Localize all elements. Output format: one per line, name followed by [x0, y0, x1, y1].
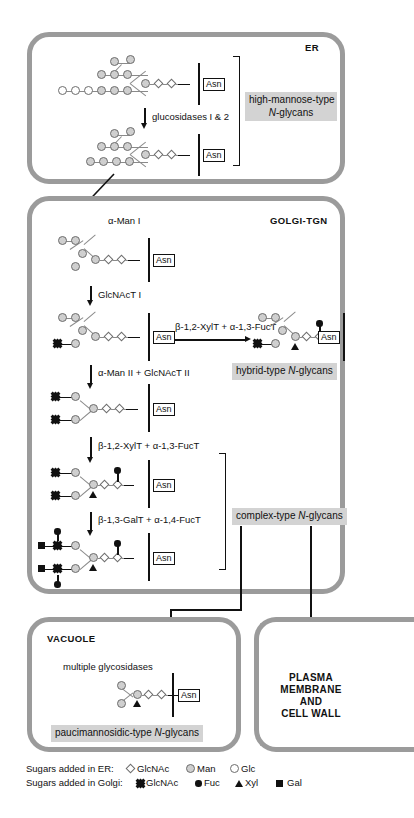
callout-high-mannose-line1: high-mannose-type	[249, 94, 335, 105]
sugar-man	[125, 157, 134, 166]
enzyme-label-glucosidases: glucosidases I & 2	[152, 111, 229, 122]
callout-hybrid-type: hybrid-type N-glycans	[232, 363, 337, 380]
legend-row-er: Sugars added in ER: GlcNAc Man Glc	[26, 762, 346, 776]
sugar-fuc	[114, 467, 121, 474]
callout-pauci-text-b: -glycans	[162, 727, 199, 738]
sugar-man-core	[141, 79, 150, 88]
sugar-glcnac-golgi	[53, 541, 63, 551]
sugar-man	[58, 313, 67, 322]
sugar-man	[123, 86, 132, 95]
bracket-high-mannose	[233, 56, 240, 166]
sugar-xyl	[89, 564, 97, 571]
asn-label: Asn	[153, 403, 175, 416]
legend-item-gal: Gal	[287, 777, 302, 788]
destination-line-4: CELL WALL	[281, 708, 341, 719]
sugar-fuc	[54, 581, 61, 588]
sugar-man	[71, 564, 80, 573]
membrane-bar	[198, 134, 200, 176]
membrane-bar	[343, 313, 345, 361]
destination-label-plasma-membrane: PLASMA MEMBRANE AND CELL WALL	[270, 672, 352, 720]
sugar-xyl	[291, 343, 299, 350]
sugar-fuc	[54, 528, 61, 535]
sugar-man-core	[133, 690, 142, 699]
sugar-glcnac-golgi	[253, 339, 263, 349]
sugar-man	[126, 127, 135, 136]
membrane-bar	[148, 460, 150, 508]
glcnac-golgi-icon	[136, 779, 146, 789]
sugar-man	[97, 70, 106, 79]
sugar-man	[71, 262, 80, 271]
enzyme-label-multiple-glycosidases: multiple glycosidases	[63, 661, 153, 672]
sugar-man	[123, 70, 132, 79]
asn-label: Asn	[178, 689, 200, 702]
gal-icon	[276, 780, 283, 787]
enzyme-label-xylt-fuct-complex: β-1,2-XylT + α-1,3-FucT	[98, 440, 199, 451]
sugar-man	[71, 468, 80, 477]
sugar-man	[97, 142, 106, 151]
xyl-icon	[235, 780, 243, 787]
sugar-man	[71, 313, 80, 322]
sugar-man	[71, 236, 80, 245]
sugar-man	[126, 55, 135, 64]
callout-high-mannose-line2-rest: -glycans	[276, 107, 313, 118]
sugar-man	[110, 57, 119, 66]
sugar-man	[78, 326, 87, 335]
callout-complex-text-b: -glycans	[305, 510, 342, 521]
destination-line-2: MEMBRANE	[280, 684, 341, 695]
man-icon	[186, 764, 195, 773]
membrane-bar	[148, 313, 150, 361]
sugar-man	[117, 699, 126, 708]
legend-item-man: Man	[197, 763, 215, 774]
sugar-man-core	[91, 332, 100, 341]
sugar-man	[58, 236, 67, 245]
fuc-icon	[195, 780, 202, 787]
sugar-glcnac-golgi	[51, 468, 61, 478]
asn-label: Asn	[203, 149, 225, 162]
sugar-glcnac-golgi	[53, 339, 63, 349]
sugar-man-core	[89, 404, 98, 413]
compartment-er-label: ER	[305, 42, 319, 53]
sugar-man	[97, 86, 106, 95]
sugar-man	[99, 157, 108, 166]
membrane-bar	[172, 673, 174, 717]
callout-complex-type: complex-type N-glycans	[232, 508, 347, 525]
callout-pauci-text-a: paucimannosidic-type	[55, 727, 155, 738]
legend-item-glcnac-er: GlcNAc	[137, 763, 169, 774]
callout-pauci-italic: N	[155, 727, 162, 738]
sugar-man	[271, 339, 280, 348]
sugar-glc	[71, 86, 80, 95]
membrane-bar	[148, 533, 150, 581]
sugar-glcnac-golgi	[51, 392, 61, 402]
destination-line-3: AND	[300, 696, 323, 707]
membrane-bar	[148, 384, 150, 432]
sugar-man-core	[89, 553, 98, 562]
sugar-glcnac-golgi	[53, 564, 63, 574]
sugar-fuc	[114, 540, 121, 547]
callout-paucimannosidic: paucimannosidic-type N-glycans	[51, 725, 203, 742]
asn-label: Asn	[153, 479, 175, 492]
sugar-glc	[84, 86, 93, 95]
asn-label: Asn	[203, 78, 225, 91]
compartment-golgi-label: GOLGI-TGN	[270, 215, 327, 226]
membrane-bar	[198, 63, 200, 105]
sugar-man	[123, 142, 132, 151]
sugar-man	[110, 129, 119, 138]
asn-label: Asn	[153, 254, 175, 267]
sugar-xyl	[133, 700, 141, 707]
bracket-complex-type	[219, 453, 226, 570]
enzyme-label-glcnact1: GlcNAcT I	[98, 289, 141, 300]
sugar-fuc	[316, 320, 323, 327]
sugar-man-core	[291, 332, 300, 341]
sugar-man	[110, 70, 119, 79]
callout-high-mannose-italic: N	[269, 107, 276, 118]
asn-label: Asn	[153, 552, 175, 565]
sugar-man-core	[91, 255, 100, 264]
glcnac-er-icon	[126, 764, 136, 774]
sugar-man	[71, 491, 80, 500]
sugar-man	[110, 86, 119, 95]
sugar-man	[278, 326, 287, 335]
sugar-xyl	[89, 491, 97, 498]
callout-hybrid-text-b: -glycans	[295, 365, 332, 376]
sugar-man	[117, 681, 126, 690]
